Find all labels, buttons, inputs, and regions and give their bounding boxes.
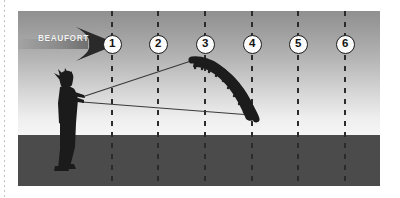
scale-marker-1: 1 <box>103 35 122 54</box>
scale-marker-3: 3 <box>196 35 215 54</box>
scale-marker-6: 6 <box>336 35 355 54</box>
lower-control-line <box>82 102 251 115</box>
scale-marker-4: 4 <box>243 35 262 54</box>
illustration-page: BEAUFORT <box>0 0 400 198</box>
scale-marker-5: 5 <box>289 35 308 54</box>
scale-marker-2: 2 <box>149 35 168 54</box>
beaufort-label: BEAUFORT <box>38 33 89 43</box>
illustration-panel: BEAUFORT <box>18 11 380 186</box>
upper-control-line <box>82 60 194 97</box>
kite-flyer-silhouette <box>54 68 85 171</box>
page-margin-rule <box>4 0 5 198</box>
